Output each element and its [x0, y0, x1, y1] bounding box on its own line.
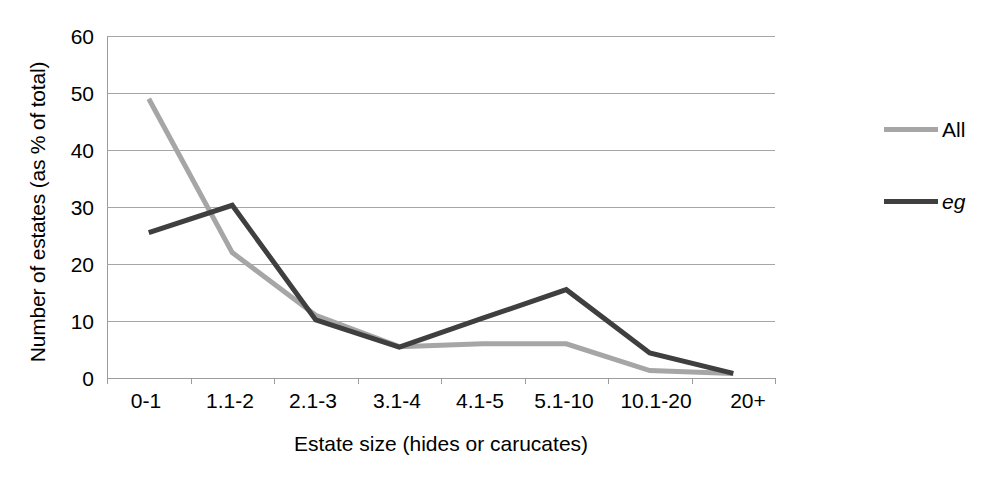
y-tick-label-0: 0 [48, 368, 94, 389]
x-tick-label-4: 4.1-5 [438, 390, 522, 412]
x-tick-label-7: 20+ [706, 390, 790, 412]
x-axis-tick [608, 378, 609, 384]
y-tick-label-40: 40 [48, 140, 94, 161]
legend-item-eg: eg [884, 190, 992, 212]
line-chart-figure: Number of estates (as % of total) 60 50 … [0, 0, 992, 479]
x-tick-label-1: 1.1-2 [188, 390, 272, 412]
y-tick-label-10: 10 [48, 311, 94, 332]
x-tick-label-6: 10.1-20 [606, 390, 706, 412]
x-tick-label-5: 5.1-10 [522, 390, 606, 412]
x-axis-tick [191, 378, 192, 384]
x-axis-tick [441, 378, 442, 384]
legend-label-eg: eg [942, 191, 965, 212]
x-tick-label-0: 0-1 [104, 390, 188, 412]
legend-swatch-eg [884, 199, 938, 204]
legend-item-all: All [884, 118, 992, 140]
series-line-eg [149, 205, 734, 373]
plot-area [107, 36, 775, 378]
legend: All eg [884, 118, 992, 262]
x-axis-tick [107, 378, 108, 384]
x-axis-tick [274, 378, 275, 384]
legend-swatch-all [884, 127, 938, 132]
series-svg [107, 36, 775, 378]
y-axis-title: Number of estates (as % of total) [26, 22, 50, 402]
y-tick-label-50: 50 [48, 83, 94, 104]
x-tick-label-3: 3.1-4 [355, 390, 439, 412]
x-axis-tick [692, 378, 693, 384]
y-tick-label-20: 20 [48, 254, 94, 275]
x-axis-tick [525, 378, 526, 384]
x-axis-tick [775, 378, 776, 384]
legend-label-all: All [942, 119, 965, 140]
x-axis-tick [358, 378, 359, 384]
y-tick-label-60: 60 [48, 26, 94, 47]
x-tick-label-2: 2.1-3 [271, 390, 355, 412]
y-tick-label-30: 30 [48, 197, 94, 218]
x-axis-title: Estate size (hides or carucates) [107, 432, 775, 456]
